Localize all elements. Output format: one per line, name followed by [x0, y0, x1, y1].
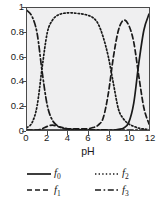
- y-tick-label: 0.6: [0, 52, 24, 62]
- y-tick-mark: [22, 106, 26, 107]
- legend-label-subscript: 3: [125, 189, 129, 198]
- legend-label-subscript: 0: [57, 172, 61, 181]
- speciation-chart-figure: 00.20.40.60.81 pH f0f2f1f3 024681012: [0, 0, 161, 200]
- legend-label-f3: f3: [122, 183, 129, 198]
- x-tick-mark: [88, 131, 89, 135]
- curve-f1: [27, 20, 149, 130]
- x-tick-mark: [129, 131, 130, 135]
- x-tick-mark: [67, 131, 68, 135]
- legend-entry-f0: f0: [26, 166, 88, 182]
- y-tick-label: 0.8: [0, 27, 24, 37]
- legend-line-sample-f2: [94, 169, 120, 179]
- x-tick-mark: [109, 131, 110, 135]
- legend-line-sample-f1: [26, 185, 52, 195]
- chart-legend: f0f2f1f3: [26, 166, 156, 198]
- legend-label-subscript: 2: [125, 172, 129, 181]
- curves-svg: [27, 8, 149, 130]
- x-tick-label: 12: [140, 133, 160, 143]
- legend-line-sample-f0: [26, 169, 52, 179]
- y-tick-mark: [22, 57, 26, 58]
- legend-label-f1: f1: [54, 183, 61, 198]
- plot-area: [26, 7, 150, 131]
- legend-entry-f2: f2: [94, 166, 156, 182]
- y-axis-tick-labels: 00.20.40.60.81: [0, 0, 24, 140]
- y-tick-label: 1: [0, 2, 24, 12]
- y-tick-mark: [22, 32, 26, 33]
- legend-label-f2: f2: [122, 166, 129, 181]
- legend-label-subscript: 1: [57, 189, 61, 198]
- legend-entry-f1: f1: [26, 183, 88, 199]
- y-tick-mark: [22, 7, 26, 8]
- x-axis-title: pH: [26, 145, 150, 157]
- legend-label-f0: f0: [54, 166, 61, 181]
- x-tick-mark: [47, 131, 48, 135]
- y-tick-mark: [22, 81, 26, 82]
- x-tick-label: 0: [16, 133, 36, 143]
- legend-entry-f3: f3: [94, 183, 156, 199]
- y-tick-label: 0.4: [0, 77, 24, 87]
- y-tick-label: 0.2: [0, 101, 24, 111]
- legend-line-sample-f3: [94, 185, 120, 195]
